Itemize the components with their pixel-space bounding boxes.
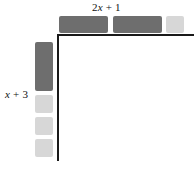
top-dimension-label-text: 2x + 1 xyxy=(92,1,121,13)
area-model-top-border xyxy=(57,34,194,36)
top-x-tile-2 xyxy=(113,16,162,33)
left-unit-tile-3 xyxy=(35,139,53,157)
area-model-left-border xyxy=(57,34,59,161)
left-x-tile-1 xyxy=(35,42,53,91)
top-unit-tile-1 xyxy=(166,16,184,33)
left-dimension-label-text: x + 3 xyxy=(5,88,28,100)
top-dimension-label: 2x + 1 xyxy=(92,1,121,13)
top-x-tile-1 xyxy=(59,16,108,33)
left-unit-tile-2 xyxy=(35,117,53,135)
algebra-tile-area-model: 2x + 1 x + 3 xyxy=(0,0,194,169)
left-dimension-label: x + 3 xyxy=(5,88,28,100)
left-unit-tile-1 xyxy=(35,95,53,113)
